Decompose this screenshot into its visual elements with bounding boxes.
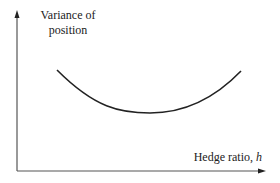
y-axis-label-line-1: Variance of [28, 8, 108, 23]
x-axis-label: Hedge ratio, h [194, 150, 262, 165]
x-axis-label-text: Hedge ratio, [194, 150, 256, 164]
x-axis-arrow-icon [258, 169, 266, 174]
y-axis-label-line-2: position [28, 23, 108, 38]
y-axis [15, 10, 20, 171]
x-axis-label-variable: h [256, 150, 262, 164]
variance-curve [57, 70, 241, 113]
y-axis-label: Variance of position [28, 8, 108, 38]
x-axis [17, 169, 266, 174]
y-axis-arrow-icon [15, 10, 20, 18]
